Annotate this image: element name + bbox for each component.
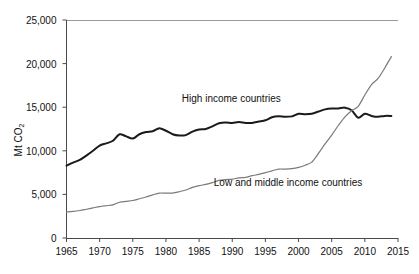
y-tick-label: 25,000 xyxy=(0,15,57,26)
x-tick-label: 1995 xyxy=(254,246,276,257)
x-tick-label: 2000 xyxy=(287,246,309,257)
x-tick-label: 1990 xyxy=(221,246,243,257)
x-tick-label: 1965 xyxy=(55,246,77,257)
axis-lines xyxy=(66,20,398,239)
series-line-high-income xyxy=(67,108,392,166)
y-tick-label: 5,000 xyxy=(0,189,57,200)
x-tick-label: 2005 xyxy=(321,246,343,257)
y-tick-label: 15,000 xyxy=(0,102,57,113)
y-axis-title: Mt CO2 xyxy=(13,124,24,157)
co2-emissions-line-chart: 05,00010,00015,00020,00025,000 196519701… xyxy=(0,0,419,274)
series-paths xyxy=(67,57,392,212)
x-tick-label: 2010 xyxy=(354,246,376,257)
series-line-low-middle-income xyxy=(67,57,392,212)
series-label-high-income: High income countries xyxy=(182,93,281,104)
plot-area xyxy=(0,0,419,274)
y-axis-ticks xyxy=(63,20,67,238)
x-tick-label: 2015 xyxy=(387,246,409,257)
y-tick-label: 20,000 xyxy=(0,58,57,69)
y-tick-label: 10,000 xyxy=(0,145,57,156)
y-tick-label: 0 xyxy=(0,233,57,244)
series-label-low-middle-income: Low and middle income countries xyxy=(214,177,362,188)
x-tick-label: 1985 xyxy=(188,246,210,257)
x-tick-label: 1975 xyxy=(122,246,144,257)
x-tick-label: 1970 xyxy=(89,246,111,257)
x-tick-label: 1980 xyxy=(155,246,177,257)
